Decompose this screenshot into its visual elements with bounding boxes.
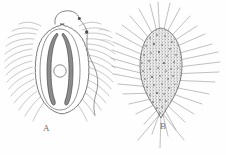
panel-a-hook-knob [78,17,81,20]
figure-canvas [0,0,226,155]
panel-a-flagellum-nodule [85,30,88,33]
figure-plate: A B [0,0,226,155]
panel-a-figure [5,11,115,121]
panel-a-nucleus [54,65,66,77]
panel-b-body-outline [140,28,182,118]
panel-a-label: A [43,123,50,133]
panel-b-label: B [160,121,166,131]
panel-a-apical-hook [55,11,79,24]
panel-a-accessory-strokes [99,30,112,42]
